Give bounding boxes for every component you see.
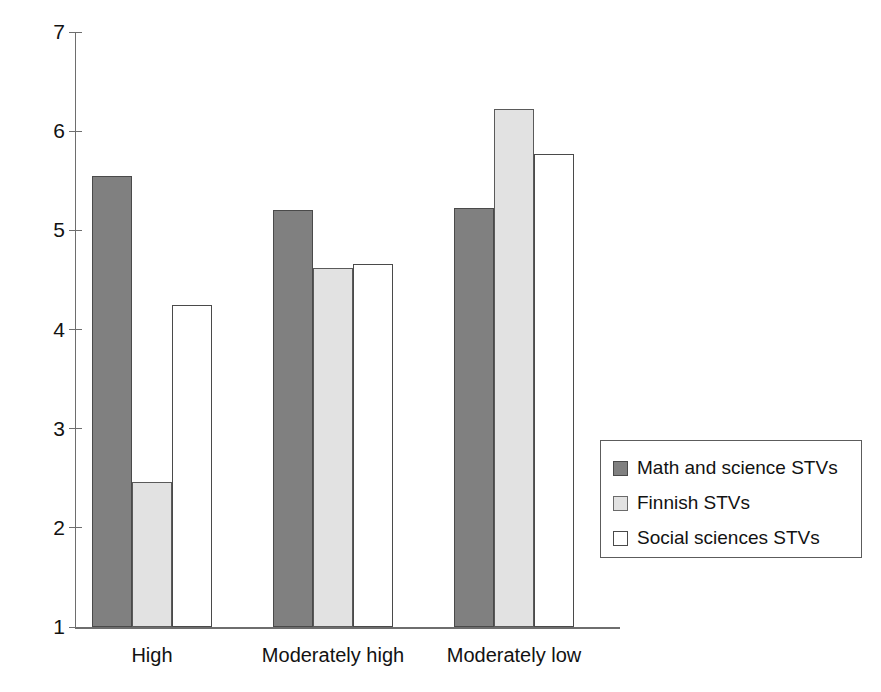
light-gray-swatch [613,496,628,511]
y-axis-tick-label: 2 [25,517,65,538]
bar [273,210,313,627]
legend-item-label: Finnish STVs [637,492,750,514]
legend-item-label: Social sciences STVs [637,527,820,549]
bar [534,154,574,627]
bar [172,305,212,627]
x-axis-line [75,627,620,629]
white-swatch [613,531,628,546]
y-axis-tick-label: 1 [25,616,65,637]
x-axis-category-label: Moderately low [404,643,624,667]
y-axis-tick-label: 6 [25,120,65,141]
legend-item: Finnish STVs [613,487,861,519]
bar-group [454,32,574,627]
bar-group [273,32,393,627]
y-axis-tick-label: 5 [25,219,65,240]
bar [494,109,534,627]
legend-item: Math and science STVs [613,452,861,484]
bar [353,264,393,627]
bar [313,268,353,627]
y-axis-tick-label: 3 [25,418,65,439]
bar [92,176,132,627]
y-axis-tick-label: 7 [25,21,65,42]
bar-group [92,32,212,627]
bar-chart: 7654321 HighModerately highModerately lo… [0,0,881,692]
plot-area [75,32,620,627]
bar [454,208,494,627]
dark-gray-swatch [613,461,628,476]
y-axis-tick-label: 4 [25,319,65,340]
y-axis-tick-labels: 7654321 [10,0,65,692]
legend-item: Social sciences STVs [613,522,861,554]
bar [132,482,172,627]
legend-item-label: Math and science STVs [637,457,838,479]
chart-legend: Math and science STVsFinnish STVsSocial … [600,440,862,558]
